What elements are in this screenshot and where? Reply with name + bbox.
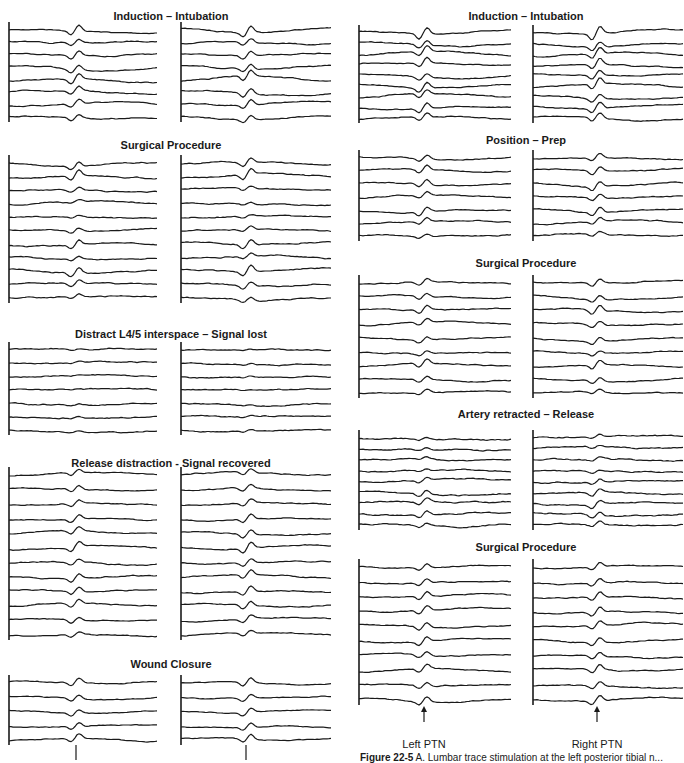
waveform-trace — [181, 215, 331, 218]
waveform-trace — [533, 489, 683, 496]
waveform-trace — [533, 95, 683, 103]
waveform-trace — [181, 100, 331, 109]
waveform-trace — [533, 378, 683, 384]
waveform-trace — [181, 253, 331, 259]
waveform-trace — [533, 579, 683, 586]
waveform-trace — [9, 587, 157, 594]
waveform-trace — [359, 469, 511, 472]
waveform-trace — [359, 46, 511, 56]
waveform-trace — [359, 389, 511, 394]
waveform-trace — [533, 279, 683, 286]
waveform-trace — [533, 512, 683, 518]
waveform-trace — [359, 448, 511, 452]
waveform-trace — [181, 363, 331, 366]
waveform-trace — [181, 349, 331, 351]
waveform-trace — [533, 621, 683, 629]
waveform-trace — [181, 202, 331, 205]
waveform-trace — [9, 375, 157, 378]
waveform-trace — [533, 42, 683, 50]
waveform-trace — [9, 388, 157, 390]
waveform-trace — [359, 606, 511, 614]
waveform-trace — [533, 337, 683, 344]
waveform-trace — [359, 477, 511, 483]
waveform-trace — [9, 430, 157, 433]
waveform-trace — [533, 306, 683, 315]
waveform-trace — [359, 57, 511, 66]
waveform-trace — [181, 570, 331, 579]
waveform-trace — [181, 51, 331, 59]
waveform-trace — [533, 78, 683, 89]
waveform-trace — [9, 599, 157, 607]
waveform-trace — [181, 630, 331, 636]
waveform-trace — [9, 256, 157, 261]
waveform-trace — [181, 530, 331, 538]
waveform-trace — [359, 113, 511, 121]
waveform-trace — [359, 293, 511, 299]
waveform-trace — [181, 115, 331, 122]
waveform-trace — [533, 154, 683, 161]
waveform-trace — [9, 268, 157, 277]
waveform-trace — [533, 217, 683, 224]
waveform-trace — [9, 99, 157, 107]
waveform-trace — [9, 115, 157, 121]
waveform-trace — [9, 403, 157, 406]
waveform-trace — [359, 192, 511, 199]
waveform-trace — [181, 226, 331, 232]
waveform-trace — [359, 234, 511, 238]
waveform-trace — [533, 167, 683, 175]
waveform-trace — [533, 194, 683, 200]
waveform-trace — [9, 632, 157, 638]
waveform-trace — [533, 434, 683, 438]
waveform-trace — [181, 499, 331, 506]
waveform-trace — [359, 279, 511, 286]
waveform-trace — [359, 82, 511, 92]
waveform-trace — [9, 74, 157, 84]
waveform-trace — [9, 500, 157, 507]
waveform-trace — [181, 615, 331, 623]
waveform-trace — [359, 41, 511, 48]
waveform-trace — [9, 348, 157, 350]
waveform-trace — [9, 162, 157, 170]
waveform-trace — [181, 70, 331, 81]
waveform-trace — [533, 113, 683, 121]
waveform-trace — [533, 592, 683, 600]
waveform-trace — [9, 574, 157, 583]
waveform-trace — [9, 678, 157, 686]
waveform-trace — [181, 514, 331, 523]
waveform-trace — [533, 607, 683, 616]
waveform-trace — [533, 59, 683, 69]
waveform-trace — [359, 579, 511, 586]
waveform-trace — [359, 511, 511, 518]
waveform-trace — [9, 486, 157, 492]
waveform-trace — [533, 665, 683, 673]
waveform-trace — [9, 294, 157, 299]
waveform-trace — [181, 542, 331, 553]
waveform-trace — [533, 207, 683, 215]
waveform-trace — [359, 682, 511, 688]
waveform-trace — [9, 187, 157, 192]
waveform-trace — [181, 429, 331, 432]
waveform-trace — [9, 215, 157, 218]
waveform-trace — [181, 415, 331, 417]
waveform-trace — [181, 297, 331, 302]
waveform-trace — [9, 416, 157, 418]
waveform-trace — [359, 207, 511, 216]
waveform-trace — [359, 337, 511, 343]
waveform-trace — [181, 89, 331, 98]
waveform-trace — [9, 618, 157, 624]
waveform-trace — [359, 351, 511, 356]
waveform-trace — [181, 240, 331, 249]
figure-number: Figure 22-5 — [360, 752, 413, 763]
waveform-trace — [181, 158, 331, 167]
waveform-trace — [533, 446, 683, 449]
waveform-trace — [181, 559, 331, 567]
left-ptn-label: Left PTN — [402, 738, 445, 750]
arrow-up-icon — [421, 706, 427, 712]
waveform-trace — [533, 351, 683, 356]
waveform-trace — [533, 70, 683, 79]
caption-text: A. Lumbar trace stimulation at the left … — [413, 752, 663, 763]
waveform-trace — [359, 564, 511, 571]
waveform-trace — [359, 165, 511, 173]
waveform-trace — [359, 490, 511, 496]
waveform-trace — [359, 305, 511, 313]
